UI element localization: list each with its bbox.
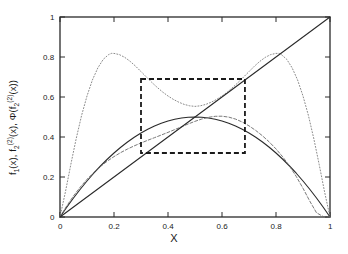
- y-tick-label-5: 1: [50, 13, 54, 22]
- y-tick-label-2: 0.4: [43, 133, 54, 142]
- x-tick-label-3: 0.6: [217, 222, 228, 231]
- x-tick-label-5: 1: [328, 222, 332, 231]
- series-3: [60, 17, 330, 217]
- y-tick-label-0: 0: [50, 213, 54, 222]
- x-tick-label-0: 0: [58, 222, 62, 231]
- series-1: [60, 116, 330, 217]
- series-0: [60, 117, 330, 217]
- y-tick-label-3: 0.6: [43, 93, 54, 102]
- series-2: [60, 53, 330, 217]
- y-tick-label-4: 0.8: [43, 53, 54, 62]
- x-tick-label-1: 0.2: [109, 222, 120, 231]
- x-tick-label-2: 0.4: [163, 222, 174, 231]
- figure-canvas: f1(x), f2(2)(x), Φ(f2(2)(x)) X 00.20.40.…: [0, 0, 348, 254]
- y-tick-label-1: 0.2: [43, 173, 54, 182]
- x-tick-label-4: 0.8: [271, 222, 282, 231]
